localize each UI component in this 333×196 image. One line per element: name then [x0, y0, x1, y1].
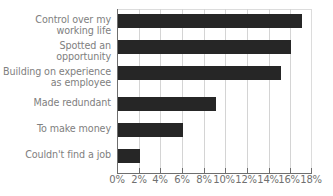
category-label-couldnt-find-a-job: Couldn't find a job [0, 150, 111, 161]
x-tick-8 [204, 168, 205, 173]
gridline-4 [160, 9, 161, 168]
x-axis-tick-labels: 0% 2% 4% 6% 8% 10% 12% 14% 16% 18% [100, 174, 333, 190]
bar-made-redundant [118, 97, 216, 111]
x-tick-2 [139, 168, 140, 173]
x-tick-0 [117, 168, 118, 173]
x-tick-6 [182, 168, 183, 173]
category-label-to-make-money: To make money [0, 124, 111, 135]
x-tick-14 [269, 168, 270, 173]
bar-couldnt-find-a-job [118, 149, 140, 163]
category-label-spotted-an-opportunity: Spotted an opportunity [0, 41, 111, 62]
gridline-12 [247, 9, 248, 168]
x-tick-label-18: 18% [294, 174, 328, 186]
category-label-made-redundant: Made redundant [0, 98, 111, 109]
gridline-6 [182, 9, 183, 168]
bar-building-on-experience-as-employee [118, 66, 281, 80]
gridline-16 [290, 9, 291, 168]
bar-spotted-an-opportunity [118, 40, 291, 54]
plot-area [117, 9, 312, 168]
category-label-control-over-my-working-life: Control over my working life [0, 15, 111, 36]
gridline-10 [225, 9, 226, 168]
bar-control-over-my-working-life [118, 14, 302, 28]
gridline-14 [269, 9, 270, 168]
category-axis-labels: Control over my working life Spotted an … [0, 9, 113, 168]
x-tick-10 [225, 168, 226, 173]
plot-frame [117, 9, 312, 168]
bar-chart: Control over my working life Spotted an … [0, 0, 333, 196]
y-axis-line [117, 9, 118, 168]
gridline-2 [139, 9, 140, 168]
bar-to-make-money [118, 123, 183, 137]
x-tick-12 [247, 168, 248, 173]
category-label-building-on-experience-as-employee: Building on experience as employee [0, 67, 111, 88]
x-tick-16 [290, 168, 291, 173]
gridline-8 [204, 9, 205, 168]
x-tick-4 [160, 168, 161, 173]
x-tick-18 [311, 168, 312, 173]
